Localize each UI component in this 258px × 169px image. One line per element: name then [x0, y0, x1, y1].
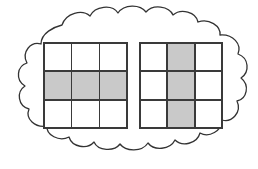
diagram-canvas: Left grid has its middle row shaded; rig…	[0, 0, 258, 169]
grid-cell-shaded	[45, 72, 71, 99]
left-grid	[43, 42, 128, 129]
grid-cell-shaded	[168, 72, 194, 99]
grid-cell	[45, 101, 71, 128]
grid-cell-shaded	[72, 72, 98, 99]
grid-cell-shaded	[168, 101, 194, 128]
grid-cell	[45, 44, 71, 71]
grid-cell	[100, 44, 126, 71]
grid-cell-shaded	[100, 72, 126, 99]
grid-cell	[72, 44, 98, 71]
grid-cell	[196, 72, 222, 99]
right-grid	[139, 42, 223, 129]
grid-cell	[141, 44, 167, 71]
grid-cell-shaded	[168, 44, 194, 71]
grid-cell	[72, 101, 98, 128]
grid-cell	[141, 101, 167, 128]
grid-cell	[196, 44, 222, 71]
grid-cell	[196, 101, 222, 128]
grid-cell	[100, 101, 126, 128]
grid-cell	[141, 72, 167, 99]
